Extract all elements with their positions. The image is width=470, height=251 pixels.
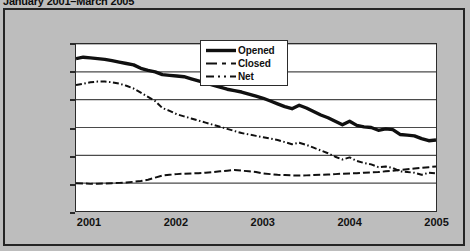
legend-swatch-opened bbox=[205, 45, 237, 56]
y-axis-tick bbox=[70, 212, 75, 214]
legend-label-opened: Opened bbox=[238, 45, 275, 56]
x-axis-tick-label: 2001 bbox=[77, 216, 101, 228]
chart-figure: January 2001–March 2005 02,0004,0006,000… bbox=[0, 0, 470, 251]
chart-legend: Opened Closed Net bbox=[200, 40, 288, 86]
legend-label-closed: Closed bbox=[238, 58, 271, 69]
legend-swatch-closed bbox=[205, 58, 237, 69]
legend-item-closed: Closed bbox=[205, 57, 287, 70]
legend-item-opened: Opened bbox=[205, 44, 287, 57]
x-axis-tick-label: 2003 bbox=[251, 216, 275, 228]
x-axis-tick-label: 2004 bbox=[337, 216, 361, 228]
series-line-closed bbox=[76, 166, 436, 183]
legend-label-net: Net bbox=[238, 71, 254, 82]
legend-swatch-net bbox=[205, 71, 237, 82]
page-title: January 2001–March 2005 bbox=[3, 0, 134, 7]
x-axis-tick-label: 2002 bbox=[164, 216, 188, 228]
x-axis-tick-label: 2005 bbox=[424, 216, 448, 228]
legend-item-net: Net bbox=[205, 70, 287, 83]
